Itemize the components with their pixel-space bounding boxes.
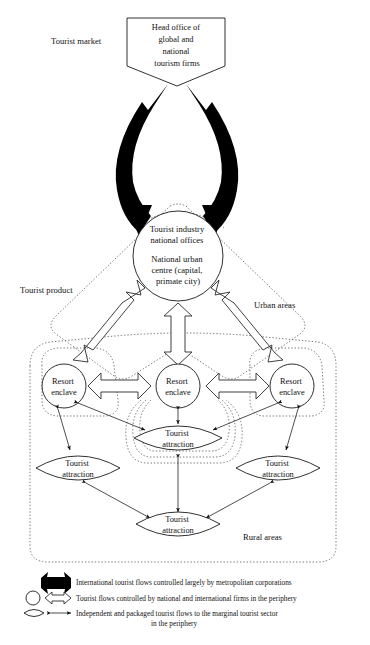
capital-city-label: Tourist industry national offices Nation… bbox=[150, 224, 207, 286]
tourism-core-periphery-diagram: Head office of global and national touri… bbox=[0, 0, 370, 645]
legend-hollow-block-arrow-icon bbox=[45, 592, 71, 604]
flow-centre-resort-to-right-resort bbox=[206, 373, 269, 399]
arrow-left-resort-left-attraction bbox=[58, 409, 70, 450]
diagram-canvas: Head office of global and national touri… bbox=[0, 0, 370, 645]
arrow-right-resort-right-attraction bbox=[286, 409, 298, 450]
label-tourist-market: Tourist market bbox=[51, 36, 102, 46]
legend-row-2-text: Tourist flows controlled by national and… bbox=[76, 594, 297, 603]
legend-row-1-text: International tourist flows controlled l… bbox=[76, 578, 292, 587]
flow-capital-to-right-resort bbox=[211, 280, 283, 362]
label-urban-areas: Urban areas bbox=[254, 300, 296, 310]
arrow-left-attraction-bottom-attraction bbox=[86, 483, 150, 518]
label-rural-areas: Rural areas bbox=[243, 532, 283, 542]
flow-left-resort-to-centre-resort bbox=[88, 373, 151, 399]
legend-lens-icon bbox=[24, 610, 44, 617]
legend-solid-block-arrow-body bbox=[41, 572, 71, 594]
arrow-right-resort-centre-attraction bbox=[213, 403, 278, 430]
arrow-right-attraction-bottom-attraction bbox=[206, 483, 270, 518]
legend: International tourist flows controlled l… bbox=[24, 572, 297, 628]
resort-enclave-right-shape bbox=[270, 364, 314, 408]
flow-capital-to-left-resort bbox=[73, 280, 145, 362]
legend-circle-icon bbox=[26, 591, 40, 605]
resort-enclave-left-shape bbox=[42, 364, 86, 408]
resort-enclave-centre-shape bbox=[156, 364, 200, 408]
flow-capital-to-centre-resort bbox=[164, 303, 192, 365]
label-tourist-product: Tourist product bbox=[20, 285, 73, 295]
legend-row-3-text: Independent and packaged tourist flows t… bbox=[76, 609, 278, 618]
legend-row-3-text-line2: in the periphery bbox=[151, 619, 198, 628]
